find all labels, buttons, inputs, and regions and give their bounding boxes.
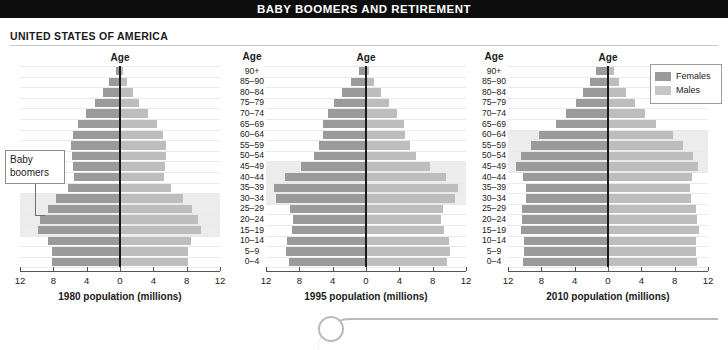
age-group-label: 20–24	[230, 215, 274, 224]
bottom-decorative-rule	[318, 318, 718, 350]
bar-females	[301, 162, 366, 170]
age-group-label: 70–74	[230, 109, 274, 118]
x-axis-tick	[87, 267, 88, 271]
bar-females	[319, 141, 366, 149]
x-axis-tick-label: 8	[176, 275, 198, 286]
bar-males	[366, 194, 455, 202]
age-group-label: 55–59	[472, 141, 516, 150]
age-column-header: Age	[6, 52, 234, 63]
x-axis-tick-label: 4	[322, 275, 344, 286]
x-axis-tick-label: 8	[422, 275, 444, 286]
bar-females	[40, 215, 120, 223]
bar-males	[120, 109, 148, 117]
bar-females	[292, 226, 366, 234]
bar-males	[366, 152, 416, 160]
bar-females	[576, 99, 609, 107]
bar-males	[120, 194, 183, 202]
x-axis-tick	[641, 267, 642, 271]
bar-males	[120, 131, 163, 139]
bar-males	[608, 131, 673, 139]
legend-swatch-males-icon	[655, 86, 671, 95]
bar-females	[351, 78, 366, 86]
bar-females	[72, 152, 120, 160]
bar-males	[366, 237, 449, 245]
bar-females	[590, 78, 608, 86]
bar-males	[366, 247, 450, 255]
bar-females	[521, 152, 608, 160]
bar-females	[293, 215, 366, 223]
bar-males	[366, 109, 397, 117]
bar-females	[73, 131, 121, 139]
callout-line-2: boomers	[10, 166, 60, 179]
x-axis-tick	[608, 267, 609, 271]
pyramid-panel-1995: Age1284048121995 population (millions)	[252, 48, 480, 320]
bar-males	[120, 88, 133, 96]
age-group-label: 80–84	[472, 88, 516, 97]
bottom-decorative-circle	[318, 316, 344, 342]
baby-boomers-callout: Baby boomers	[5, 150, 65, 184]
bar-males	[608, 152, 693, 160]
bar-males	[608, 88, 626, 96]
age-group-label: 65–69	[472, 120, 516, 129]
bar-males	[366, 258, 447, 266]
age-group-label: 0–4	[472, 257, 516, 266]
x-axis-tick-label: 0	[597, 275, 619, 286]
bar-females	[38, 226, 120, 234]
callout-leader-line-foot	[35, 215, 45, 216]
age-group-label: 60–64	[230, 130, 274, 139]
age-group-label: 75–79	[230, 98, 274, 107]
x-axis-tick-label: 8	[288, 275, 310, 286]
bar-females	[522, 215, 608, 223]
age-label-column: Age90+85–9080–8475–7970–7465–6960–6455–5…	[230, 48, 274, 298]
bar-females	[334, 99, 366, 107]
bar-females	[523, 173, 608, 181]
heading-divider	[10, 45, 718, 46]
page-title-bar: BABY BOOMERS AND RETIREMENT	[0, 0, 728, 18]
plot-area: 1284048121995 population (millions)	[252, 64, 480, 276]
age-group-label: 85–90	[472, 77, 516, 86]
bar-males	[608, 67, 614, 75]
age-group-label: 45–49	[472, 162, 516, 171]
legend-label-females: Females	[676, 71, 711, 81]
age-column-header: Age	[252, 52, 480, 63]
bar-males	[608, 247, 696, 255]
bar-males	[608, 109, 645, 117]
age-group-label: 90+	[230, 67, 274, 76]
bar-females	[526, 194, 608, 202]
bar-males	[120, 258, 188, 266]
bar-females	[289, 258, 366, 266]
bar-males	[120, 173, 164, 181]
age-group-label: 55–59	[230, 141, 274, 150]
callout-line-1: Baby	[10, 153, 60, 166]
bar-males	[120, 99, 139, 107]
bar-males	[608, 184, 690, 192]
bar-females	[596, 67, 608, 75]
bar-males	[366, 173, 446, 181]
bar-females	[323, 120, 366, 128]
x-axis-title: 1980 population (millions)	[6, 291, 234, 302]
x-axis-title: 1995 population (millions)	[252, 291, 480, 302]
age-group-label: 75–79	[472, 98, 516, 107]
bar-males	[608, 194, 691, 202]
bar-males	[608, 173, 692, 181]
bar-females	[86, 109, 120, 117]
x-axis-tick-label: 12	[209, 275, 231, 286]
age-group-label: 10–14	[472, 236, 516, 245]
bar-females	[522, 205, 608, 213]
x-axis-line	[266, 271, 466, 272]
x-axis-tick-label: 8	[42, 275, 64, 286]
bar-females	[556, 120, 609, 128]
bar-females	[539, 131, 608, 139]
bar-females	[323, 131, 366, 139]
legend: Females Males	[650, 64, 722, 104]
bar-males	[366, 215, 441, 223]
bar-males	[608, 258, 697, 266]
bar-females	[48, 237, 120, 245]
bar-females	[52, 247, 120, 255]
bar-males	[366, 88, 381, 96]
age-group-label: 45–49	[230, 162, 274, 171]
bar-females	[290, 205, 366, 213]
age-group-label: 15–19	[230, 226, 274, 235]
x-axis-tick-label: 0	[109, 275, 131, 286]
x-axis-tick-label: 4	[388, 275, 410, 286]
